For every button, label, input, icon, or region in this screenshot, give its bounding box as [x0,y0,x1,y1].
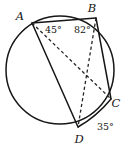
point-label-c: C [112,96,121,110]
chord-ad [32,23,78,127]
angle-label-at-c: 35° [97,121,114,132]
angle-label-at-b: 82° [74,24,91,35]
chord-bc [96,18,111,99]
angle-label-at-a: 45° [45,24,62,35]
point-label-d: D [73,132,83,146]
point-label-a: A [15,9,24,23]
geometry-figure: A B C D 45° 82° 35° [0,0,134,149]
point-label-b: B [87,1,96,15]
geometry-canvas: A B C D 45° 82° 35° [0,0,134,149]
